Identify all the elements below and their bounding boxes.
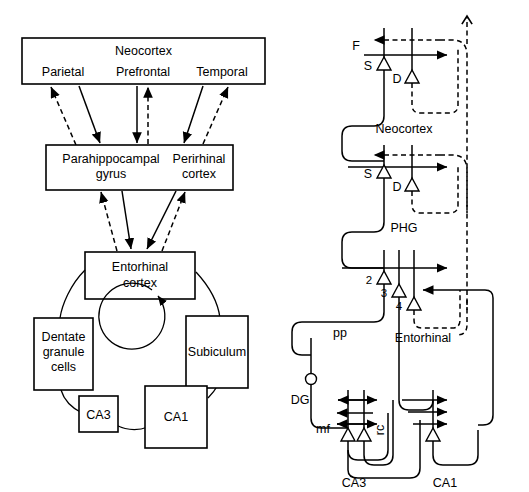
- entorhinal-label-line1: Entorhinal: [112, 260, 168, 274]
- subiculum-box: Subiculum: [186, 316, 248, 388]
- ca3-label: CA3: [86, 408, 110, 422]
- ca1-soma-triangle: [426, 428, 440, 441]
- d-label-top: D: [392, 72, 401, 86]
- neocortex-parietal-label: Parietal: [42, 65, 84, 79]
- neocortex-module: F S D: [352, 28, 458, 116]
- figure-container: Neocortex Parietal Prefrontal Temporal P…: [0, 0, 529, 492]
- dentate-label-line3: cells: [51, 360, 76, 374]
- entorhinal-cortex-box: Entorhinal cortex: [85, 252, 195, 299]
- entorhinal-label: Entorhinal: [395, 331, 451, 345]
- f-input-label: F: [352, 39, 360, 53]
- perirhinal-label-line2: cortex: [182, 167, 217, 181]
- phg-module: S D: [348, 145, 458, 222]
- right-panel-diagram: F S D Neocortex: [280, 0, 529, 492]
- phg-to-entorhinal-projection: [342, 222, 384, 268]
- dentate-label-line2: granule: [43, 345, 85, 359]
- perforant-path: pp: [292, 284, 384, 355]
- ca3-soma-triangle-1: [341, 428, 355, 441]
- mf-label: mf: [316, 422, 330, 436]
- entorhinal-layer4-triangle: [407, 297, 421, 310]
- subiculum-label: Subiculum: [188, 345, 246, 359]
- ca3-box: CA3: [79, 396, 118, 432]
- dg-soma-circle: [306, 374, 317, 385]
- feedback-bus-mid: [440, 155, 467, 310]
- entorhinal-layer2-label: 2: [366, 274, 372, 286]
- s-label-mid: S: [364, 167, 372, 181]
- parahippocampal-perirhinal-box: Parahippocampal gyrus Perirhinal cortex: [46, 145, 233, 190]
- dentate-gyrus-module: DG: [291, 338, 348, 428]
- ca1-module: CA1: [402, 390, 478, 490]
- ca1-box: CA1: [145, 386, 207, 448]
- parahippocampal-label-line2: gyrus: [96, 167, 127, 181]
- neocortex-title: Neocortex: [115, 44, 173, 58]
- d-soma-triangle-top: [405, 70, 419, 83]
- entorhinal-layer2-triangle: [377, 271, 391, 284]
- neocortex-temporal-label: Temporal: [196, 65, 247, 79]
- neocortex-label: Neocortex: [376, 122, 434, 136]
- feedback-bus-top: [440, 40, 467, 205]
- s-label-top: S: [364, 59, 372, 73]
- dentate-granule-cells-box: Dentate granule cells: [34, 318, 93, 390]
- neocortex-prefrontal-label: Prefrontal: [116, 65, 170, 79]
- entorhinal-layer3-to-ca1: [399, 297, 433, 410]
- ca3-label: CA3: [342, 476, 366, 490]
- parahippocampal-label-line1: Parahippocampal: [62, 152, 159, 166]
- ca1-label: CA1: [433, 476, 457, 490]
- d-label-mid: D: [392, 180, 401, 194]
- s-soma-triangle-top: [377, 57, 391, 70]
- d-soma-triangle-mid: [405, 178, 419, 191]
- parahippocampal-to-entorhinal-arrows: [101, 191, 185, 251]
- perirhinal-label-line1: Perirhinal: [173, 152, 226, 166]
- ca3-module: mf rc CA3: [316, 390, 420, 490]
- left-panel-diagram: Neocortex Parietal Prefrontal Temporal P…: [0, 0, 280, 492]
- dg-label: DG: [291, 393, 310, 407]
- neocortex-box: Neocortex Parietal Prefrontal Temporal: [22, 38, 265, 84]
- rc-label: rc: [373, 425, 387, 435]
- neocortex-to-parahippocampal-arrows: [51, 86, 228, 145]
- pp-label: pp: [333, 326, 347, 340]
- ca3-soma-triangle-2: [357, 428, 371, 441]
- dentate-label-line1: Dentate: [42, 330, 86, 344]
- entorhinal-layer3-triangle: [392, 284, 406, 297]
- phg-label: PHG: [390, 221, 417, 235]
- ca1-label: CA1: [164, 410, 188, 424]
